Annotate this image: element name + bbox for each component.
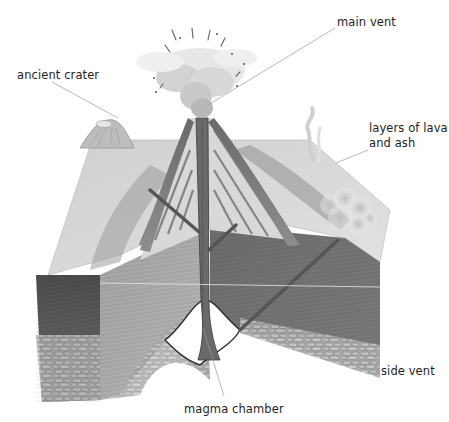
label-text: main vent (337, 15, 396, 30)
label-text: ancient crater (17, 68, 99, 83)
label-text-line-1: layers of lava (369, 121, 448, 136)
leader-layers (336, 150, 368, 163)
ancient-crater-illustration (80, 120, 134, 148)
volcano-diagram: main vent ancient crater layers of lava … (0, 0, 449, 422)
eruption-cloud (136, 28, 257, 118)
left-face-strata (36, 275, 100, 402)
label-ancient-crater: ancient crater (17, 68, 99, 83)
right-face-strata (210, 225, 380, 378)
label-side-vent: side vent (381, 364, 435, 379)
label-text-line-2: and ash (369, 136, 448, 151)
label-magma-chamber: magma chamber (184, 402, 284, 417)
label-main-vent: main vent (337, 15, 396, 30)
volcano-illustration (0, 0, 449, 422)
leader-ancient-crater (52, 82, 118, 118)
label-text: side vent (381, 364, 435, 379)
label-text: magma chamber (184, 402, 284, 417)
label-layers-of-lava-and-ash: layers of lava and ash (369, 121, 448, 151)
